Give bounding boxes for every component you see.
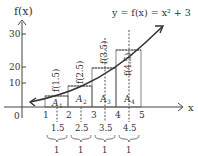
x-tick-3: 3 xyxy=(91,110,97,120)
area-label-1: A xyxy=(51,98,59,108)
y-tick-10: 10 xyxy=(9,78,21,88)
svg-text:2: 2 xyxy=(83,98,87,105)
x-tick-5: 5 xyxy=(139,110,145,120)
y-tick-20: 20 xyxy=(9,62,21,72)
height-label-1: f(1.5) xyxy=(51,69,61,92)
height-label-4: f(4.5) xyxy=(123,53,133,76)
midpoint-2: 2.5 xyxy=(75,123,89,133)
svg-text:3: 3 xyxy=(107,98,111,105)
height-label-2: f(2.5) xyxy=(75,61,85,84)
midpoint-1: 1.5 xyxy=(51,123,65,133)
height-label-3: f(3.5) xyxy=(99,41,109,64)
width-1: 1 xyxy=(54,145,59,155)
midpoint-3: 3.5 xyxy=(99,123,113,133)
x-tick-2: 2 xyxy=(66,110,72,120)
curve xyxy=(30,27,162,102)
width-3: 1 xyxy=(102,145,107,155)
svg-text:1: 1 xyxy=(59,102,63,109)
x-tick-4: 4 xyxy=(115,110,121,120)
riemann-sum-diagram: f(x) x 0 30 20 10 y = f(x) = x² + 3 f(1.… xyxy=(0,0,198,156)
x-axis-label: x xyxy=(188,102,194,113)
midpoint-4: 4.5 xyxy=(123,123,137,133)
width-2: 1 xyxy=(78,145,83,155)
equation-label: y = f(x) = x² + 3 xyxy=(111,7,191,18)
svg-text:4: 4 xyxy=(131,98,135,105)
area-label-3: A xyxy=(99,94,107,104)
area-label-4: A xyxy=(123,94,131,104)
width-4: 1 xyxy=(126,145,131,155)
x-tick-1: 1 xyxy=(43,110,49,120)
origin-label: 0 xyxy=(14,111,20,121)
y-tick-30: 30 xyxy=(9,29,21,39)
area-label-2: A xyxy=(75,94,83,104)
y-axis-label: f(x) xyxy=(14,5,33,18)
